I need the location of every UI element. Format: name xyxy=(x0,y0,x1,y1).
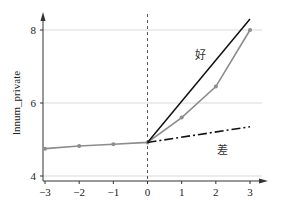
x-tick-label: 3 xyxy=(247,186,253,198)
data-point-marker xyxy=(180,116,184,120)
gridlines xyxy=(43,30,262,176)
x-axis-arrow-icon xyxy=(259,179,268,184)
chart: −3−2−10123468 lnnum_private 好差 xyxy=(0,0,281,207)
series-line xyxy=(148,127,251,143)
y-axis-arrow-icon xyxy=(41,12,46,21)
x-tick-label: 0 xyxy=(145,186,151,198)
data-point-marker xyxy=(43,147,47,151)
annotation-label: 好 xyxy=(195,48,206,62)
x-tick-label: −2 xyxy=(73,186,85,198)
x-tick-label: −3 xyxy=(39,186,51,198)
y-tick-label: 6 xyxy=(31,97,37,109)
y-axis-label: lnnum_private xyxy=(10,71,22,135)
x-tick-label: 1 xyxy=(179,186,185,198)
y-tick-label: 8 xyxy=(31,24,37,36)
data-point-marker xyxy=(111,142,115,146)
x-tick-label: −1 xyxy=(107,186,119,198)
annotation-label: 差 xyxy=(217,143,228,157)
data-point-marker xyxy=(248,28,252,32)
y-tick-label: 4 xyxy=(31,170,37,182)
data-point-marker xyxy=(77,144,81,148)
tick-labels: −3−2−10123468 xyxy=(31,24,254,198)
data-point-marker xyxy=(214,85,218,89)
series-line xyxy=(148,19,251,142)
x-tick-label: 2 xyxy=(213,186,219,198)
